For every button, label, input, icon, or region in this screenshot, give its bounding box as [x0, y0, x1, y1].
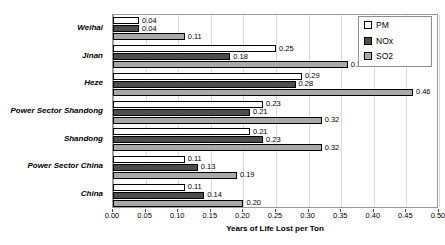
x-tick-label: 0.00	[105, 211, 120, 220]
x-tick-label: 0.45	[398, 211, 413, 220]
bar-nox-power-sector-china	[113, 164, 198, 171]
bar-pm-jinan	[113, 45, 276, 52]
category-label: Heze	[84, 79, 103, 87]
chart-legend: PMNOxSO2	[358, 16, 432, 67]
legend-label: PM	[376, 21, 389, 30]
legend-label: NOx	[376, 37, 393, 46]
gridline	[276, 15, 277, 207]
x-tick-label: 0.25	[268, 211, 283, 220]
x-tick-label: 0.35	[333, 211, 348, 220]
x-axis-ticks: 0.000.050.100.150.200.250.300.350.400.45…	[112, 209, 438, 223]
category-label: Weihai	[77, 24, 103, 32]
category-label: China	[81, 190, 103, 198]
bar-so2-shandong	[113, 144, 322, 151]
legend-item-so2: SO2	[364, 52, 426, 61]
x-tick-label: 0.15	[202, 211, 217, 220]
legend-swatch-icon	[364, 52, 372, 60]
bar-value-label: 0.04	[142, 25, 157, 33]
bar-nox-jinan	[113, 53, 230, 60]
bar-nox-heze	[113, 81, 296, 88]
x-tick-label: 0.20	[235, 211, 250, 220]
bar-pm-china	[113, 184, 185, 191]
bar-value-label: 0.32	[325, 116, 340, 124]
category-label: Shandong	[64, 135, 103, 143]
category-axis-labels: WeihaiJinanHezePower Sector ShandongShan…	[0, 14, 107, 208]
bar-value-label: 0.11	[188, 33, 202, 41]
bar-value-label: 0.23	[266, 136, 281, 144]
gridline	[309, 15, 310, 207]
bar-value-label: 0.32	[325, 144, 340, 152]
bar-so2-weihai	[113, 33, 185, 40]
bar-value-label: 0.23	[266, 100, 281, 108]
bar-so2-power-sector-china	[113, 172, 237, 179]
category-label: Jinan	[82, 52, 103, 60]
legend-swatch-icon	[364, 21, 372, 29]
bar-nox-power-sector-shandong	[113, 109, 250, 116]
bar-value-label: 0.11	[188, 183, 202, 191]
bar-value-label: 0.46	[416, 89, 431, 97]
x-tick-label: 0.30	[300, 211, 315, 220]
bar-so2-power-sector-shandong	[113, 117, 322, 124]
bar-so2-jinan	[113, 61, 348, 68]
bar-value-label: 0.21	[253, 108, 268, 116]
bar-value-label: 0.19	[240, 172, 255, 180]
x-tick-label: 0.10	[170, 211, 185, 220]
legend-item-pm: PM	[364, 21, 426, 30]
x-tick-label: 0.05	[137, 211, 152, 220]
bar-value-label: 0.13	[201, 164, 216, 172]
bar-nox-weihai	[113, 25, 139, 32]
bar-so2-heze	[113, 89, 413, 96]
category-label: Power Sector China	[27, 162, 103, 170]
bar-pm-heze	[113, 73, 302, 80]
gridline	[439, 15, 440, 207]
bar-so2-china	[113, 200, 243, 207]
bar-value-label: 0.28	[299, 81, 314, 89]
bar-nox-china	[113, 192, 204, 199]
bar-value-label: 0.20	[246, 199, 261, 207]
bar-pm-power-sector-china	[113, 156, 185, 163]
legend-label: SO2	[376, 52, 393, 61]
gridline	[341, 15, 342, 207]
bar-value-label: 0.14	[207, 191, 222, 199]
bar-value-label: 0.11	[188, 156, 202, 164]
x-axis-title: Years of Life Lost per Ton	[112, 224, 438, 233]
legend-swatch-icon	[364, 37, 372, 45]
bar-pm-shandong	[113, 128, 250, 135]
bar-nox-shandong	[113, 136, 263, 143]
legend-item-nox: NOx	[364, 37, 426, 46]
x-tick-label: 0.40	[365, 211, 380, 220]
x-tick-label: 0.50	[431, 211, 445, 220]
bar-pm-weihai	[113, 17, 139, 24]
category-label: Power Sector Shandong	[11, 107, 103, 115]
bar-value-label: 0.25	[279, 45, 294, 53]
bar-pm-power-sector-shandong	[113, 101, 263, 108]
bar-value-label: 0.18	[233, 53, 248, 61]
